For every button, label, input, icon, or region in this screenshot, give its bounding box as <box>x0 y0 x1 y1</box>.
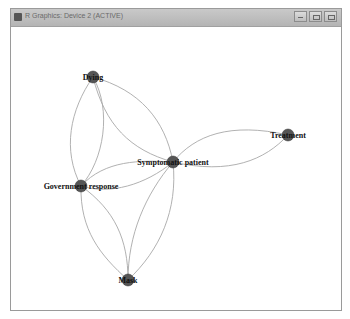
edge-symptomatic-mask-2 <box>128 162 174 280</box>
edge-dying-government-1 <box>70 77 93 186</box>
network-graph: DyingSymptomatic patientGovernment respo… <box>0 0 350 319</box>
node-label-government: Government response <box>44 182 119 191</box>
edge-dying-symptomatic-1 <box>93 77 173 162</box>
edge-dying-government-2 <box>81 77 104 186</box>
node-label-mask: Mask <box>118 276 138 285</box>
edge-dying-symptomatic-2 <box>93 77 173 162</box>
node-label-treatment: Treatment <box>270 131 306 140</box>
edge-government-mask-2 <box>81 186 128 280</box>
node-label-dying: Dying <box>83 73 103 82</box>
node-label-symptomatic: Symptomatic patient <box>137 158 209 167</box>
edge-government-mask-1 <box>81 186 128 280</box>
edge-symptomatic-mask-1 <box>128 162 173 280</box>
